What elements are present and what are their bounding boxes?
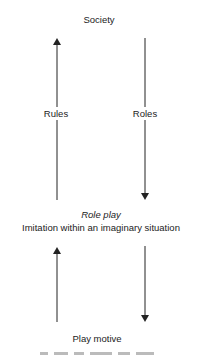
node-play-motive: Play motive [72, 333, 121, 344]
arrow-role-play-down [141, 246, 149, 322]
arrow-play-motive-up [53, 247, 61, 322]
cropped-caption-fragment [40, 352, 170, 357]
node-role-play-subtitle: Imitation within an imaginary situation [22, 222, 180, 233]
edge-label-rules: Rules [44, 107, 68, 120]
arrows-layer [0, 0, 203, 357]
node-role-play-title: Role play [81, 209, 121, 220]
edge-label-roles: Roles [133, 107, 157, 120]
